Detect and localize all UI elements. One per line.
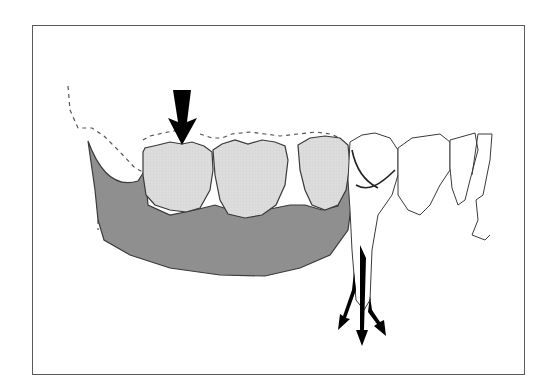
dental-illustration bbox=[0, 0, 551, 392]
anterior-tooth-1 bbox=[398, 134, 450, 215]
molar-1-crown bbox=[143, 142, 213, 212]
anterior-tooth-2 bbox=[450, 133, 478, 205]
dental-diagram bbox=[0, 0, 551, 392]
molar-2-crown bbox=[213, 140, 288, 218]
down-right-arrow-icon bbox=[368, 296, 386, 336]
tipped-tooth bbox=[348, 133, 398, 310]
occlusal-force-arrow-icon bbox=[168, 90, 197, 145]
down-left-arrow-icon bbox=[338, 272, 356, 330]
root-force-arrows bbox=[338, 245, 386, 346]
